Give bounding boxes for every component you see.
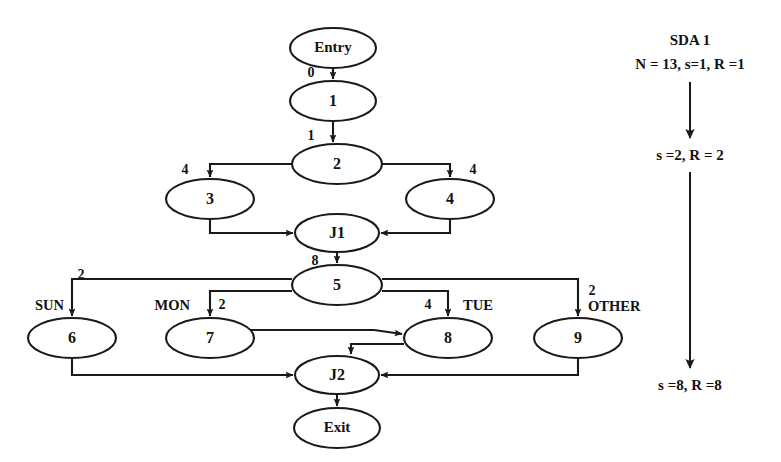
edge-9-j2 — [381, 358, 578, 375]
edge-4-j1 — [381, 219, 450, 233]
edge-7-8 — [250, 330, 402, 334]
nodes-layer: Entry1234J156789J2Exit — [28, 28, 622, 448]
node-label-n3: 3 — [206, 190, 214, 207]
node-label-n8: 8 — [444, 329, 452, 346]
node-label-entry: Entry — [314, 39, 352, 55]
node-n5[interactable]: 5 — [292, 265, 382, 305]
edge-3-j1 — [210, 219, 293, 233]
node-entry[interactable]: Entry — [290, 28, 376, 68]
node-label-n6: 6 — [68, 329, 76, 346]
node-label-n1: 1 — [329, 92, 337, 109]
branch-label-other: OTHER — [588, 298, 641, 314]
branch-label-tue: TUE — [463, 297, 493, 313]
edge-2-3 — [210, 164, 292, 177]
node-n1[interactable]: 1 — [290, 81, 376, 121]
edge-label-1-2: 1 — [308, 128, 315, 143]
edge-label-2-3: 4 — [182, 162, 189, 177]
node-n3[interactable]: 3 — [166, 179, 254, 219]
node-j1[interactable]: J1 — [295, 214, 379, 252]
edge-label-2-4: 4 — [470, 162, 477, 177]
edge-8-j2 — [351, 344, 404, 354]
node-j2[interactable]: J2 — [295, 356, 379, 394]
branch-label-mon: MON — [155, 297, 191, 313]
edge-label-5-9: 2 — [589, 283, 596, 298]
node-label-n9: 9 — [574, 329, 582, 346]
sda-title: SDA 1 — [670, 32, 710, 48]
diagram-canvas: 014482242 Entry1234J156789J2Exit SUNMONT… — [0, 0, 781, 462]
node-label-j2: J2 — [329, 366, 345, 383]
node-n4[interactable]: 4 — [406, 179, 494, 219]
node-label-n7: 7 — [206, 329, 214, 346]
node-label-n4: 4 — [446, 190, 454, 207]
edge-5-8 — [382, 291, 448, 316]
node-label-j1: J1 — [329, 224, 345, 241]
edge-label-entry-1: 0 — [308, 65, 315, 80]
node-label-n2: 2 — [333, 155, 341, 172]
edge-label-5-6: 2 — [78, 267, 85, 282]
edge-6-j2 — [72, 358, 293, 375]
node-exit[interactable]: Exit — [294, 408, 380, 448]
sda-state-8: s =8, R =8 — [658, 377, 722, 393]
node-n8[interactable]: 8 — [404, 318, 492, 358]
edge-2-4 — [382, 164, 450, 177]
sda-state-2: s =2, R = 2 — [656, 147, 724, 163]
node-n9[interactable]: 9 — [534, 318, 622, 358]
node-label-exit: Exit — [324, 419, 351, 435]
branch-label-sun: SUN — [35, 297, 65, 313]
node-n2[interactable]: 2 — [292, 144, 382, 184]
sda-annotation-panel: SDA 1 N = 13, s=1, R =1 s =2, R = 2 s =8… — [635, 32, 744, 393]
flowchart-svg: 014482242 Entry1234J156789J2Exit SUNMONT… — [0, 0, 781, 462]
node-n6[interactable]: 6 — [28, 318, 116, 358]
edge-label-5-8: 4 — [425, 297, 432, 312]
node-n7[interactable]: 7 — [166, 318, 254, 358]
edge-label-5-7: 2 — [219, 297, 226, 312]
sda-initial-state: N = 13, s=1, R =1 — [635, 56, 744, 72]
node-label-n5: 5 — [333, 276, 341, 293]
